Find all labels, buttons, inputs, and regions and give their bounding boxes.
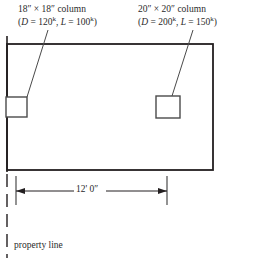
left-loads-close: ) (94, 17, 97, 27)
left-live-eq: = (66, 17, 76, 27)
left-live-load-value: 100 (76, 17, 90, 27)
dimension-label: 12' 0″ (74, 184, 100, 194)
right-column-label: 20″ × 20″ column (D = 200k, L = 150k) (138, 3, 217, 29)
left-column-loads-text: (D = 120k, L = 100k) (18, 16, 97, 29)
right-dead-load-value: 200 (158, 17, 172, 27)
dimension-arrowhead-right (158, 188, 167, 194)
right-dead-eq: = (148, 17, 158, 27)
right-column-size-text: 20″ × 20″ column (138, 3, 217, 16)
right-live-eq: = (186, 17, 196, 27)
left-column-label: 18″ × 18″ column (D = 120k, L = 100k) (18, 3, 97, 29)
property-line-label: property line (14, 240, 63, 250)
left-dead-eq: = (28, 17, 38, 27)
right-loads-close: ) (214, 17, 217, 27)
left-column-square (6, 97, 27, 117)
footing-plan-figure: 18″ × 18″ column (D = 120k, L = 100k) 20… (0, 0, 257, 261)
right-live-load-value: 150 (196, 17, 210, 27)
right-column-square (156, 96, 180, 118)
left-column-leader-line (27, 30, 48, 97)
left-column-size-text: 18″ × 18″ column (18, 3, 97, 16)
diagram-geometry (0, 0, 257, 261)
right-column-leader-line (172, 30, 193, 96)
dimension-arrowhead-left (16, 188, 25, 194)
right-column-loads-text: (D = 200k, L = 150k) (138, 16, 217, 29)
left-dead-load-value: 120 (38, 17, 52, 27)
